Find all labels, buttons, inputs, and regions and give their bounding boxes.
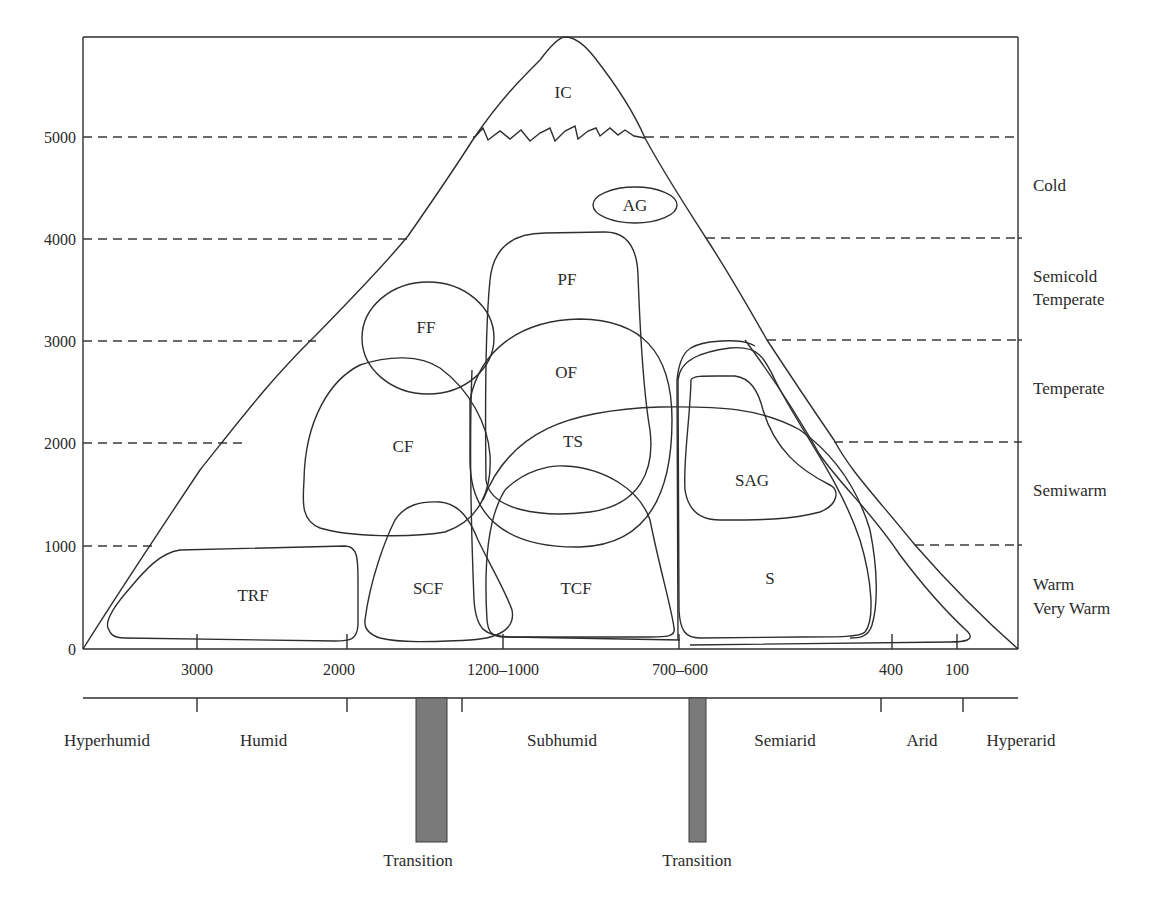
altitude-gridlines — [83, 137, 1018, 546]
humidity-axis — [83, 698, 1018, 842]
y-tick-5000: 5000 — [44, 129, 76, 146]
transition-bar-1 — [416, 698, 447, 842]
vegetation-regions — [107, 187, 876, 642]
zone-humid: Humid — [240, 731, 288, 750]
x-tick-400: 400 — [879, 661, 903, 678]
label-sag: SAG — [735, 471, 769, 490]
label-s: S — [765, 569, 774, 588]
x-axis: 3000 2000 1200–1000 700–600 400 100 — [181, 661, 969, 678]
label-pf: PF — [558, 270, 577, 289]
zone-arid: Arid — [906, 731, 938, 750]
x-tick-3000: 3000 — [181, 661, 213, 678]
label-ff: FF — [417, 318, 436, 337]
zone-hyperarid: Hyperarid — [987, 731, 1056, 750]
label-scf: SCF — [413, 579, 443, 598]
snow-line — [474, 126, 645, 141]
region-s-shape — [678, 348, 871, 638]
region-tcf-shape — [486, 466, 674, 637]
y-tick-1000: 1000 — [44, 538, 76, 555]
climate-semiwarm: Semiwarm — [1033, 481, 1107, 500]
y-axis: 5000 4000 3000 2000 1000 0 — [44, 129, 76, 658]
climate-temperate: Temperate — [1033, 379, 1105, 398]
x-tick-1200-1000: 1200–1000 — [467, 661, 539, 678]
transition-bar-2 — [689, 698, 706, 842]
region-sag-shape — [685, 376, 836, 520]
label-cf: CF — [393, 437, 414, 456]
label-tcf: TCF — [560, 579, 591, 598]
humidity-labels: Hyperhumid Humid Subhumid Semiarid Arid … — [64, 731, 1056, 870]
climate-cold: Cold — [1033, 176, 1067, 195]
label-of: OF — [555, 363, 577, 382]
zone-semiarid: Semiarid — [754, 731, 816, 750]
y-tick-4000: 4000 — [44, 231, 76, 248]
climate-semicold: Semicold — [1033, 267, 1098, 286]
x-tick-2000: 2000 — [323, 661, 355, 678]
vegetation-diagram: IC AG PF FF OF CF TS SAG TRF SCF TCF S 5… — [0, 0, 1176, 900]
climate-semicold-temperate: Temperate — [1033, 290, 1105, 309]
transition-label-2: Transition — [662, 851, 732, 870]
region-trf-shape — [107, 546, 358, 641]
desert-boundary — [690, 340, 970, 645]
region-ff-shape — [362, 282, 494, 394]
label-ag: AG — [623, 196, 648, 215]
label-ts: TS — [563, 432, 583, 451]
region-scf-shape — [365, 502, 513, 642]
label-ic: IC — [555, 83, 572, 102]
x-tick-100: 100 — [945, 661, 969, 678]
label-trf: TRF — [237, 586, 268, 605]
climate-warm: Warm — [1033, 575, 1074, 594]
climate-very-warm: Very Warm — [1033, 599, 1110, 618]
transition-label-1: Transition — [383, 851, 453, 870]
region-sag-outer-shape — [677, 341, 755, 640]
climate-labels: Cold Semicold Temperate Temperate Semiwa… — [1033, 176, 1110, 618]
y-tick-2000: 2000 — [44, 435, 76, 452]
zone-hyperhumid: Hyperhumid — [64, 731, 150, 750]
x-tick-700-600: 700–600 — [652, 661, 708, 678]
y-tick-0: 0 — [68, 641, 76, 658]
zone-subhumid: Subhumid — [527, 731, 597, 750]
y-tick-3000: 3000 — [44, 333, 76, 350]
region-subhumid-base — [471, 370, 680, 640]
